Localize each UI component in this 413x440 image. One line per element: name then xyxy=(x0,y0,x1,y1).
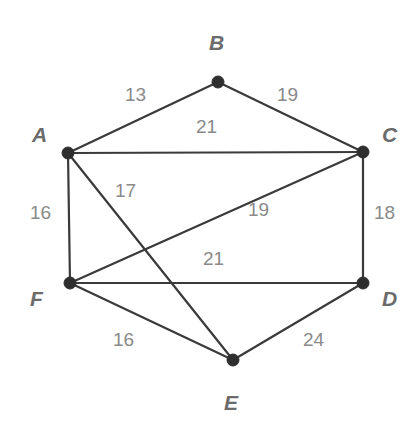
vertex-label-a: A xyxy=(32,124,47,145)
vertex-f xyxy=(64,277,76,289)
graph-canvas xyxy=(0,0,413,440)
edge-weight-a-b: 13 xyxy=(125,85,146,104)
vertex-c xyxy=(357,146,369,158)
vertex-e xyxy=(227,354,239,366)
graph-diagram: 13192116171918211624ABCDEF xyxy=(0,0,413,440)
edge-weight-a-e: 17 xyxy=(115,181,136,200)
vertex-a xyxy=(62,147,74,159)
edge-weight-f-d: 21 xyxy=(203,249,224,268)
edge-weight-b-c: 19 xyxy=(277,85,298,104)
vertex-label-c: C xyxy=(382,124,397,145)
edge-weight-c-d: 18 xyxy=(374,203,395,222)
edge-f-e xyxy=(70,283,233,360)
edge-weight-d-e: 24 xyxy=(303,330,324,349)
vertex-b xyxy=(212,76,224,88)
edge-a-f xyxy=(68,153,70,283)
vertex-label-d: D xyxy=(382,288,397,309)
vertex-label-b: B xyxy=(209,32,224,53)
vertex-d xyxy=(357,277,369,289)
edge-weight-a-f: 16 xyxy=(30,203,51,222)
vertex-label-e: E xyxy=(224,392,238,413)
vertex-label-f: F xyxy=(30,288,43,309)
edge-weight-a-c: 21 xyxy=(196,117,217,136)
edge-d-e xyxy=(233,283,363,360)
edge-a-c xyxy=(68,152,363,153)
edge-weight-f-e: 16 xyxy=(113,330,134,349)
edge-weight-f-c: 19 xyxy=(248,200,269,219)
